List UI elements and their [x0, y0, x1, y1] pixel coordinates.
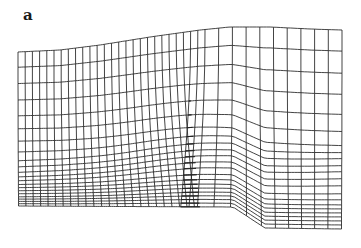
mesh-figure — [0, 0, 361, 248]
mesh-column-line — [104, 44, 109, 206]
mesh-row-line — [18, 174, 341, 194]
mesh-column-line — [274, 27, 276, 228]
mesh-row-line — [19, 199, 342, 221]
mesh-row-line — [18, 65, 342, 84]
mesh-row-line — [19, 206, 342, 229]
mesh-column-line — [126, 41, 133, 207]
mesh-column-line — [197, 30, 205, 207]
mesh-column-line — [25, 52, 26, 206]
mesh-column-line — [183, 32, 194, 207]
mesh-row-line — [18, 83, 342, 100]
mesh-row-line — [18, 27, 342, 52]
mesh-column-line — [287, 28, 289, 228]
mesh-column-line — [301, 29, 302, 229]
mesh-row-line — [18, 100, 342, 116]
mesh-grid-lines — [18, 27, 342, 229]
mesh-column-line — [342, 30, 343, 229]
mesh-row-line — [18, 45, 342, 67]
mesh-column-line — [112, 43, 118, 206]
mesh-column-line — [214, 28, 219, 207]
mesh-row-line — [18, 180, 341, 200]
mesh-column-line — [133, 40, 141, 207]
mesh-column-line — [119, 42, 126, 207]
mesh-row-line — [19, 192, 342, 213]
mesh-column-line — [18, 52, 19, 206]
